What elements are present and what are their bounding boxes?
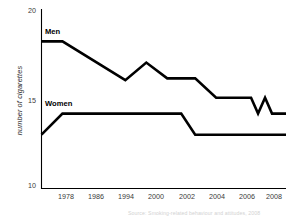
chart-container: number of cigarettes 20 15 10 1978 1986 …: [0, 0, 287, 219]
plot-area: [0, 0, 287, 219]
series-line-men: [42, 41, 287, 113]
source-note: Source: Smoking-related behaviour and at…: [128, 210, 260, 216]
series-line-women: [42, 114, 287, 135]
